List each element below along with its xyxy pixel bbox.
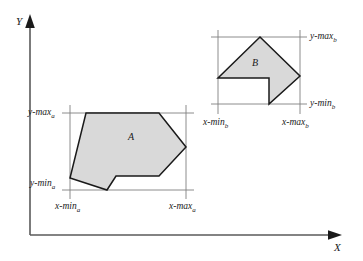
polygon-a-ymax-subscript: a bbox=[51, 112, 55, 120]
polygon-b-ymin-subscript: b bbox=[332, 103, 336, 111]
polygon-a-xmin-label: x-mina bbox=[55, 202, 80, 214]
polygon-b-xmin-subscript: b bbox=[225, 122, 229, 130]
polygon-b-xmax-text: x-max bbox=[282, 117, 305, 127]
polygon-b-xmin-text: x-min bbox=[203, 117, 225, 127]
polygon-a-xmin-text: x-min bbox=[55, 201, 77, 211]
polygon-a-xmax-label: x-maxa bbox=[169, 202, 196, 214]
polygon-a-label: A bbox=[128, 132, 134, 142]
y-axis-label: Y bbox=[16, 16, 22, 27]
polygon-b-xmax-subscript: b bbox=[305, 122, 309, 130]
polygon-a-xmax-subscript: a bbox=[192, 206, 196, 214]
polygon-a-ymin-subscript: a bbox=[52, 183, 56, 191]
polygon-b-ymin-label: y-minb bbox=[310, 99, 335, 111]
bounding-box-diagram bbox=[0, 0, 363, 261]
polygon-b-shape bbox=[218, 37, 300, 104]
polygon-a-xmax-text: x-max bbox=[169, 201, 192, 211]
polygon-a-ymin-label: y-mina bbox=[30, 179, 55, 191]
polygon-a-xmin-subscript: a bbox=[77, 206, 81, 214]
polygon-b-ymax-text: y-max bbox=[310, 31, 333, 41]
polygon-b-xmax-label: x-maxb bbox=[282, 118, 309, 130]
polygon-b-xmin-label: x-minb bbox=[203, 118, 228, 130]
polygon-a-ymin-text: y-min bbox=[30, 178, 52, 188]
polygon-a-shape bbox=[70, 113, 186, 190]
x-axis-arrowhead bbox=[328, 230, 342, 240]
polygon-b-ymax-label: y-maxb bbox=[310, 32, 337, 44]
y-axis-arrowhead bbox=[25, 14, 35, 28]
x-axis-label: X bbox=[334, 242, 341, 253]
polygon-b-ymax-subscript: b bbox=[333, 36, 337, 44]
polygon-b-ymin-text: y-min bbox=[310, 98, 332, 108]
polygon-a-ymax-label: y-maxa bbox=[28, 108, 55, 120]
polygon-a-ymax-text: y-max bbox=[28, 107, 51, 117]
polygon-b-label: B bbox=[252, 58, 258, 68]
